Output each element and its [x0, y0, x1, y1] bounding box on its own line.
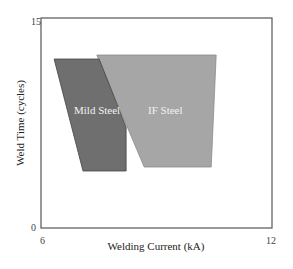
y-tick-max: 15 — [31, 16, 41, 27]
y-axis-label: Weld Time (cycles) — [14, 80, 27, 166]
weld-lobe-chart: Mild Steel IF Steel 15 0 6 12 Welding Cu… — [0, 0, 293, 269]
x-tick-max: 12 — [266, 235, 276, 246]
x-axis-label: Welding Current (kA) — [108, 240, 205, 253]
if-steel-label: IF Steel — [148, 104, 183, 116]
mild-steel-label: Mild Steel — [74, 104, 120, 116]
x-tick-min: 6 — [40, 235, 45, 246]
y-tick-min: 0 — [31, 222, 36, 233]
